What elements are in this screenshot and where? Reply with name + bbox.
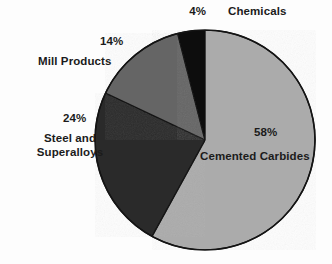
slice-label-name-chemicals: Chemicals bbox=[228, 5, 286, 19]
pie-chart-figure: 4% Chemicals 14% Mill Products 24% Steel… bbox=[0, 0, 332, 264]
steel-name-line-1: Steel and bbox=[44, 132, 96, 144]
slice-label-percent-steel-superalloys: 24% bbox=[63, 112, 86, 126]
pie-slices bbox=[95, 30, 315, 250]
steel-name-line-2: Superalloys bbox=[37, 146, 103, 158]
slice-label-percent-mill-products: 14% bbox=[100, 35, 123, 49]
slice-label-name-mill-products: Mill Products bbox=[38, 55, 112, 69]
slice-label-name-cemented-carbides: Cemented Carbides bbox=[200, 150, 310, 164]
slice-label-name-steel-superalloys: Steel and Superalloys bbox=[22, 132, 118, 159]
slice-label-percent-chemicals: 4% bbox=[189, 5, 206, 19]
slice-label-percent-cemented-carbides: 58% bbox=[254, 126, 277, 140]
